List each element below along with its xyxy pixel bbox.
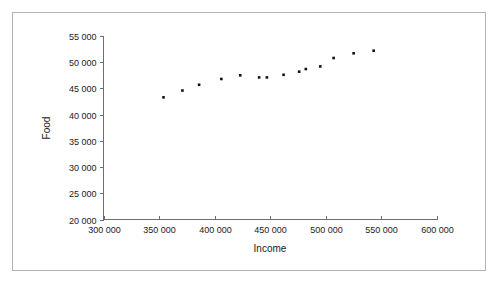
y-axis-ticks — [100, 37, 104, 221]
y-axis-title: Food — [41, 117, 52, 140]
chart-figure: 20 00025 00030 00035 00040 00045 00050 0… — [0, 0, 501, 287]
x-tick-label: 350 000 — [143, 225, 176, 235]
data-point — [181, 89, 184, 92]
data-point — [266, 76, 269, 79]
data-point — [319, 65, 322, 68]
data-point — [258, 76, 261, 79]
x-tick-label: 550 000 — [365, 225, 398, 235]
x-axis-ticks — [105, 216, 438, 220]
data-point — [352, 52, 355, 55]
axes — [103, 36, 437, 220]
data-point — [198, 83, 201, 86]
x-axis-tick-labels: 300 000350 000400 000450 000500 000550 0… — [88, 225, 454, 235]
y-tick-label: 40 000 — [69, 111, 97, 121]
data-points — [162, 49, 375, 98]
x-axis-title: Income — [254, 243, 287, 254]
data-point — [298, 70, 301, 73]
x-tick-label: 500 000 — [310, 225, 343, 235]
y-tick-label: 25 000 — [69, 189, 97, 199]
data-point — [332, 57, 335, 60]
y-tick-label: 45 000 — [69, 84, 97, 94]
y-axis-tick-labels: 20 00025 00030 00035 00040 00045 00050 0… — [69, 32, 97, 226]
data-point — [239, 74, 242, 77]
data-point — [220, 78, 223, 81]
y-tick-label: 55 000 — [69, 32, 97, 42]
scatter-plot: 20 00025 00030 00035 00040 00045 00050 0… — [0, 0, 501, 287]
y-tick-label: 50 000 — [69, 58, 97, 68]
data-point — [372, 49, 375, 52]
y-tick-label: 30 000 — [69, 163, 97, 173]
data-point — [305, 68, 308, 71]
x-tick-label: 400 000 — [199, 225, 232, 235]
data-point — [282, 73, 285, 76]
data-point — [162, 96, 165, 99]
x-tick-label: 450 000 — [254, 225, 287, 235]
y-tick-label: 35 000 — [69, 137, 97, 147]
x-tick-label: 600 000 — [421, 225, 454, 235]
x-tick-label: 300 000 — [88, 225, 121, 235]
